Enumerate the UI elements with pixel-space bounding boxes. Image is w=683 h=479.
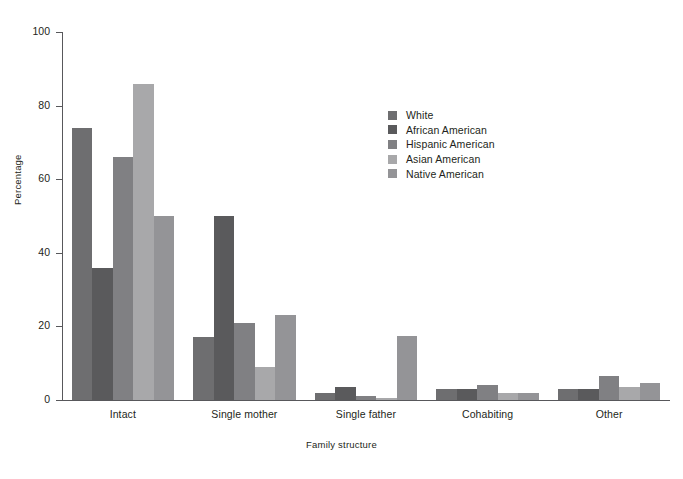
- bar-group: [436, 32, 539, 400]
- chart-legend: WhiteAfrican AmericanHispanic AmericanAs…: [388, 108, 495, 181]
- legend-label: Native American: [406, 168, 484, 180]
- bar: [558, 389, 579, 400]
- bar-group: [315, 32, 418, 400]
- legend-swatch-icon: [388, 169, 397, 178]
- plot-area: [62, 32, 670, 400]
- x-axis-label: Family structure: [0, 439, 683, 450]
- legend-item: White: [388, 108, 495, 123]
- bar: [640, 383, 661, 400]
- bar: [92, 268, 113, 400]
- bar: [397, 336, 418, 400]
- bar: [599, 376, 620, 400]
- legend-swatch-icon: [388, 125, 397, 134]
- bar-group: [558, 32, 661, 400]
- x-axis-category-label: Cohabiting: [427, 408, 549, 420]
- x-axis-category-label: Intact: [62, 408, 184, 420]
- legend-swatch-icon: [388, 140, 397, 149]
- x-axis-category-label: Single mother: [184, 408, 306, 420]
- bar-group: [72, 32, 175, 400]
- bar: [335, 387, 356, 400]
- bar: [619, 387, 640, 400]
- legend-item: Hispanic American: [388, 137, 495, 152]
- bar: [477, 385, 498, 400]
- bar: [72, 128, 93, 400]
- legend-item: African American: [388, 123, 495, 138]
- legend-label: African American: [406, 124, 487, 136]
- y-axis-tick-label: 100: [32, 25, 56, 37]
- bar: [457, 389, 478, 400]
- bar: [578, 389, 599, 400]
- legend-item: Asian American: [388, 152, 495, 167]
- bar: [315, 393, 336, 400]
- y-axis-tick-label: 20: [38, 319, 56, 331]
- bar: [154, 216, 175, 400]
- y-axis-label: Percentage: [12, 85, 23, 205]
- x-axis-line: [62, 400, 670, 401]
- legend-label: White: [406, 109, 433, 121]
- bar: [436, 389, 457, 400]
- bar-chart: Percentage 020406080100 IntactSingle mot…: [0, 0, 683, 479]
- bar: [133, 84, 154, 400]
- y-axis-tick-label: 60: [38, 172, 56, 184]
- y-axis-tick-label: 40: [38, 246, 56, 258]
- legend-swatch-icon: [388, 155, 397, 164]
- bar: [255, 367, 276, 400]
- legend-label: Asian American: [406, 153, 480, 165]
- y-axis-tick-label: 0: [44, 393, 56, 405]
- y-axis-tick-label: 80: [38, 99, 56, 111]
- legend-swatch-icon: [388, 111, 397, 120]
- bar: [214, 216, 235, 400]
- bar: [234, 323, 255, 400]
- bar: [498, 393, 519, 400]
- bar: [193, 337, 214, 400]
- bar: [275, 315, 296, 400]
- legend-item: Native American: [388, 166, 495, 181]
- legend-label: Hispanic American: [406, 138, 495, 150]
- bar-group: [193, 32, 296, 400]
- bar: [518, 393, 539, 400]
- x-axis-category-label: Single father: [305, 408, 427, 420]
- x-axis-category-label: Other: [548, 408, 670, 420]
- bar: [113, 157, 134, 400]
